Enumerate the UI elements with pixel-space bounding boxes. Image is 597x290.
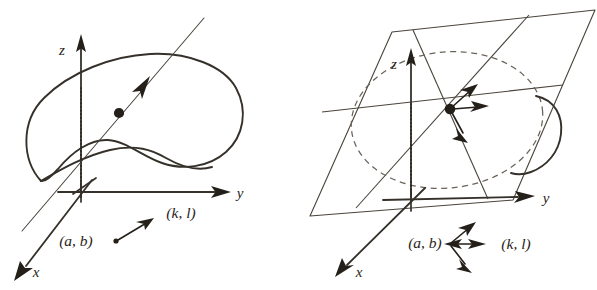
z-axis-label: z (390, 56, 397, 72)
label-arrow-down-line (451, 246, 465, 264)
direction-vector-label: (k, l) (501, 235, 530, 253)
solution-surface (26, 54, 242, 181)
y-axis-line (383, 197, 518, 200)
direction-arrow-right-head (470, 101, 489, 112)
direction-arrow-down-head (452, 128, 468, 143)
characteristic-direction-panel: z y x (a, b) (k, l) (0, 0, 297, 290)
surface-front-edge (41, 148, 212, 181)
y-axis-label: y (235, 185, 244, 201)
x-axis-arrowhead (14, 261, 33, 281)
z-axis-label: z (58, 42, 65, 58)
y-axis-label: y (541, 190, 550, 206)
plane-ruling-line-2 (356, 15, 529, 208)
x-axis-label: x (355, 264, 363, 280)
figure-root: z y x (a, b) (k, l) (0, 0, 597, 290)
surface-point (114, 108, 124, 118)
direction-vector-label: (k, l) (166, 204, 195, 222)
base-point-label: (a, b) (59, 232, 93, 250)
plane-ruling-line-3 (322, 85, 563, 112)
direction-vector-arrow (118, 222, 148, 240)
characteristic-line (22, 18, 204, 231)
base-point-label: (a, b) (408, 234, 442, 252)
tangent-plane-panel: z y x (a, b) ( (297, 0, 597, 290)
characteristic-arrowhead (132, 76, 150, 99)
x-axis-label: x (32, 264, 40, 280)
label-arrow-down-head (456, 259, 472, 273)
surface-fragment (511, 96, 561, 174)
